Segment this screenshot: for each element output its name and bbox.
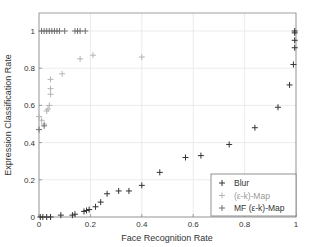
legend-label: Blur xyxy=(234,178,249,188)
plus-marker-icon xyxy=(139,54,145,60)
legend-label: (ε-k)-Map xyxy=(234,191,270,201)
y-tick-label: 0.2 xyxy=(24,176,36,185)
plus-marker-icon xyxy=(182,154,188,160)
plus-marker-icon xyxy=(48,76,54,82)
plus-marker-icon xyxy=(157,169,163,175)
y-tick-label: 0.8 xyxy=(24,64,36,73)
y-tick-label: 0.4 xyxy=(24,139,36,148)
plus-marker-icon xyxy=(48,86,54,92)
x-tick-label: 0.6 xyxy=(188,220,200,229)
y-tick-label: 0.6 xyxy=(24,101,36,110)
legend: Blur(ε-k)-MapMF (ε-k)-Map xyxy=(211,174,296,216)
plus-marker-icon xyxy=(126,188,132,194)
plus-marker-icon xyxy=(292,45,298,51)
y-axis-label: Expression Classification Rate xyxy=(3,54,13,176)
legend-label: MF (ε-k)-Map xyxy=(234,203,285,213)
series-mf-k-map xyxy=(36,28,88,133)
x-tick-label: 0.4 xyxy=(136,220,148,229)
plus-marker-icon xyxy=(36,127,42,133)
x-tick-label: 0 xyxy=(37,220,42,229)
plus-marker-icon xyxy=(59,71,65,77)
plus-marker-icon xyxy=(77,56,83,62)
plus-marker-icon xyxy=(90,52,96,58)
plus-marker-icon xyxy=(46,102,52,108)
y-tick-label: 0 xyxy=(31,213,36,222)
plus-marker-icon xyxy=(48,91,54,97)
plus-marker-icon xyxy=(62,28,68,34)
plus-marker-icon xyxy=(287,82,293,88)
plus-marker-icon xyxy=(48,214,54,220)
plus-marker-icon xyxy=(198,153,204,159)
plus-marker-icon xyxy=(104,191,110,197)
plus-marker-icon xyxy=(252,125,258,131)
plus-marker-icon xyxy=(139,182,145,188)
plus-marker-icon xyxy=(116,188,122,194)
plus-marker-icon xyxy=(93,204,99,210)
y-tick-label: 1 xyxy=(31,27,36,36)
x-tick-label: 0.2 xyxy=(85,220,97,229)
plus-marker-icon xyxy=(292,37,298,43)
x-tick-label: 0.8 xyxy=(239,220,251,229)
plus-marker-icon xyxy=(98,199,104,205)
plus-marker-icon xyxy=(290,61,296,67)
chart-svg: 00.20.40.60.81 00.20.40.60.81 Face Recog… xyxy=(0,0,310,247)
plus-marker-icon xyxy=(82,28,88,34)
x-tick-label: 1 xyxy=(294,220,299,229)
x-axis-label: Face Recognition Rate xyxy=(121,233,213,243)
scatter-chart: 00.20.40.60.81 00.20.40.60.81 Face Recog… xyxy=(0,0,310,247)
